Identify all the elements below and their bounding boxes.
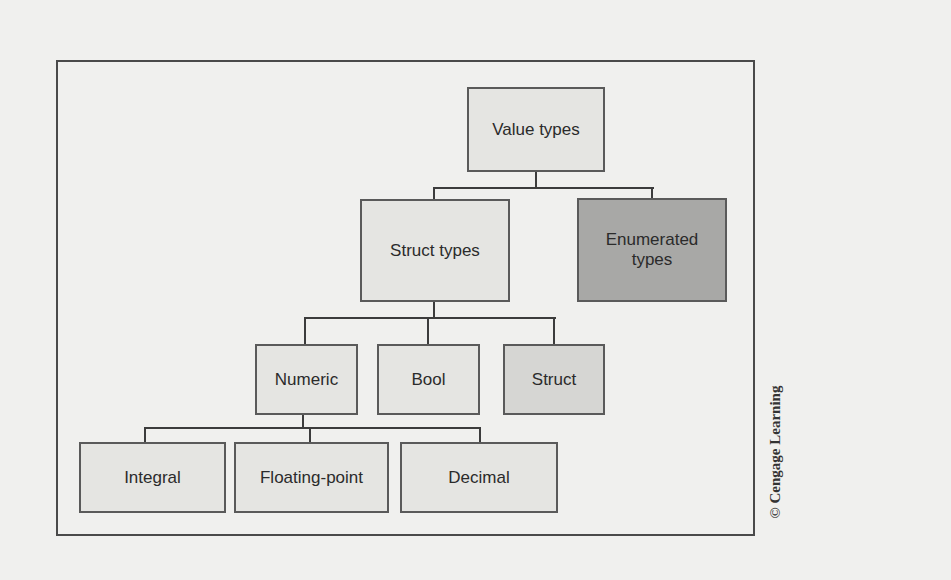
- node-struct: Struct: [503, 344, 605, 415]
- node-label: Decimal: [448, 468, 509, 488]
- connector: [427, 317, 429, 344]
- copyright-credit: © Cengage Learning: [767, 386, 784, 519]
- node-value-types: Value types: [467, 87, 605, 172]
- node-label: Value types: [492, 120, 580, 140]
- connector: [553, 317, 555, 344]
- connector: [433, 187, 435, 199]
- node-label: Struct: [532, 370, 576, 390]
- node-label: Bool: [411, 370, 445, 390]
- node-label: Floating-point: [260, 468, 363, 488]
- connector: [479, 427, 481, 442]
- node-integral: Integral: [79, 442, 226, 513]
- node-numeric: Numeric: [255, 344, 358, 415]
- node-floating-point: Floating-point: [234, 442, 389, 513]
- node-label: Enumerated types: [593, 230, 711, 270]
- connector: [304, 317, 556, 319]
- node-label: Numeric: [275, 370, 338, 390]
- connector: [144, 427, 481, 429]
- connector: [309, 427, 311, 442]
- connector: [304, 317, 306, 344]
- connector: [144, 427, 146, 442]
- node-struct-types: Struct types: [360, 199, 510, 302]
- node-enumerated-types: Enumerated types: [577, 198, 727, 302]
- node-bool: Bool: [377, 344, 480, 415]
- node-label: Struct types: [390, 241, 480, 261]
- connector: [433, 187, 654, 189]
- node-decimal: Decimal: [400, 442, 558, 513]
- node-label: Integral: [124, 468, 181, 488]
